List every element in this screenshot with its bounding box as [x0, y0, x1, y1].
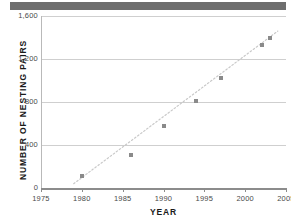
- x-axis-tick-label: 1995: [189, 194, 219, 203]
- data-point: [194, 99, 198, 103]
- x-axis-tick-mark: [204, 188, 205, 192]
- data-point: [162, 124, 166, 128]
- data-point: [260, 43, 264, 47]
- x-axis-tick-mark: [123, 188, 124, 192]
- x-axis-tick-label: 1975: [26, 194, 56, 203]
- x-axis-tick-label: 2000: [230, 194, 260, 203]
- y-axis-tick-label: 400: [2, 140, 38, 149]
- chart-figure: NUMBER OF NESTING PAIRS YEAR 04008001,20…: [0, 0, 291, 222]
- x-axis-tick-label: 2005: [271, 194, 291, 203]
- y-axis-tick-label: 0: [2, 183, 38, 192]
- x-axis-tick-label: 1980: [67, 194, 97, 203]
- y-axis-tick-label: 800: [2, 97, 38, 106]
- data-point: [219, 76, 223, 80]
- data-point: [80, 174, 84, 178]
- y-axis-tick-label: 1,200: [2, 54, 38, 63]
- top-banner-bar: [10, 2, 286, 10]
- data-point: [268, 36, 272, 40]
- x-axis-tick-mark: [82, 188, 83, 192]
- y-axis-tick-label: 1,600: [2, 11, 38, 20]
- x-axis-tick-label: 1985: [108, 194, 138, 203]
- data-point: [129, 153, 133, 157]
- x-axis-tick-mark: [41, 188, 42, 192]
- x-axis-tick-mark: [245, 188, 246, 192]
- trend-line: [41, 16, 286, 188]
- x-axis-tick-mark: [164, 188, 165, 192]
- x-axis-tick-mark: [286, 188, 287, 192]
- y-axis-line: [41, 16, 42, 189]
- x-axis-tick-label: 1990: [149, 194, 179, 203]
- x-axis-title: YEAR: [41, 207, 286, 217]
- plot-area: [41, 16, 286, 188]
